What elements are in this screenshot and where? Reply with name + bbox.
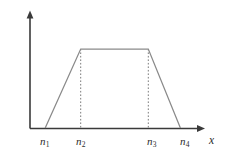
x-axis-arrowhead bbox=[197, 125, 205, 132]
fuzzy-membership-figure: μ˜A(x) n1 n2 n3 n4 x bbox=[0, 0, 229, 162]
x-tick-label-n4: n4 bbox=[180, 136, 190, 148]
tick-n3-base: n bbox=[147, 135, 153, 147]
y-axis-arrowhead bbox=[27, 11, 34, 19]
plot-area bbox=[0, 0, 229, 162]
tick-n1-sub: 1 bbox=[46, 140, 50, 149]
tick-n4-base: n bbox=[180, 135, 186, 147]
tick-n4-sub: 4 bbox=[186, 140, 190, 149]
x-tick-label-n1: n1 bbox=[40, 136, 50, 148]
tick-n1-base: n bbox=[40, 135, 46, 147]
x-tick-label-n2: n2 bbox=[76, 136, 86, 148]
tick-n3-sub: 3 bbox=[153, 140, 157, 149]
membership-function-curve bbox=[45, 49, 180, 128]
x-tick-label-n3: n3 bbox=[147, 136, 157, 148]
tick-n2-sub: 2 bbox=[82, 140, 86, 149]
x-axis-title: x bbox=[209, 135, 214, 147]
tick-n2-base: n bbox=[76, 135, 82, 147]
